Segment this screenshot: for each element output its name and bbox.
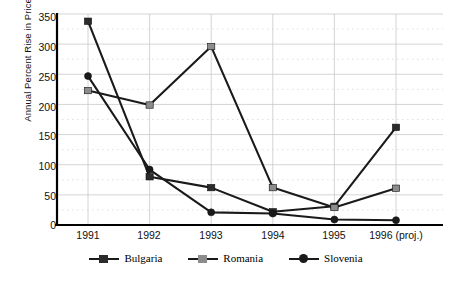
plot-area [0,0,452,281]
data-point-romania-1994 [269,184,276,190]
data-point-slovenia-1992 [146,166,153,173]
data-point-slovenia-1993 [208,209,215,216]
legend-item-bulgaria: Bulgaria [89,253,162,264]
legend-item-slovenia: Slovenia [289,253,363,264]
data-point-bulgaria-1992 [146,174,153,180]
legend-marker-romania [188,254,218,264]
data-point-bulgaria-1991 [84,18,91,24]
data-point-slovenia-1994 [269,210,276,217]
data-point-slovenia-1991 [85,73,92,80]
series-line-romania [88,47,396,208]
legend-marker-bulgaria [89,254,119,264]
legend-marker-slovenia [289,254,319,264]
legend-label-romania: Romania [223,253,263,264]
data-point-bulgaria-1993 [208,184,215,190]
data-point-bulgaria-1996-proj- [392,124,399,130]
legend-label-bulgaria: Bulgaria [124,253,162,264]
data-point-romania-1995 [331,204,338,210]
data-point-slovenia-1995 [331,216,338,223]
legend-item-romania: Romania [188,253,263,264]
data-point-romania-1992 [146,102,153,108]
data-point-romania-1996-proj- [392,185,399,191]
chart-legend: Bulgaria Romania Slovenia [0,253,452,264]
data-point-slovenia-1996-proj- [393,217,400,224]
legend-label-slovenia: Slovenia [324,253,363,264]
data-point-romania-1993 [208,43,215,49]
chart-container: Annual Percent Rise in Prices 350 300 25… [0,0,452,281]
data-point-romania-1991 [84,87,91,93]
